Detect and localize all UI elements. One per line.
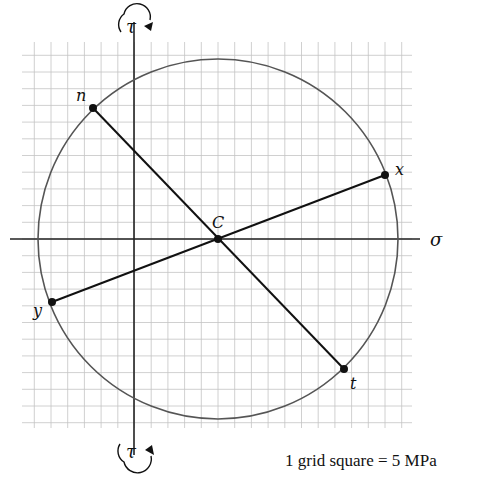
label-sigma: σ <box>430 229 443 250</box>
point-x <box>381 171 389 179</box>
label-y: y <box>32 301 43 320</box>
point-n <box>89 104 97 112</box>
label-x: x <box>395 160 404 179</box>
point-y <box>48 298 56 306</box>
label-tau-top: τ <box>126 16 137 37</box>
label-center: C <box>212 213 224 232</box>
label-n: n <box>76 86 86 105</box>
arrowhead <box>144 22 153 31</box>
arrowhead <box>145 445 154 455</box>
label-t: t <box>350 374 357 393</box>
label-tau-bottom: τ <box>126 441 137 462</box>
mohr-circle-diagram: C x y n t σ τ τ 1 grid square = 5 MPa <box>0 0 477 483</box>
point-t <box>340 365 348 373</box>
scale-note: 1 grid square = 5 MPa <box>285 451 437 470</box>
point-center <box>214 235 222 243</box>
